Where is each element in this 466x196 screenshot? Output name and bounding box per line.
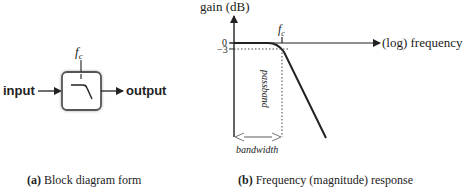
tick-minus3: −3 [217,44,228,55]
response-curve [234,43,326,138]
bandwidth-label: bandwidth [236,144,278,155]
output-label: output [126,83,167,98]
caption-a: (a) Block diagram form [27,173,142,187]
y-axis-label: gain (dB) [200,0,249,14]
frequency-response-plot: gain (dB) (log) frequency 0 −3 fc passba… [200,0,463,155]
cutoff-label-plot: fc [278,22,285,38]
x-axis-label: (log) frequency [382,35,463,50]
block-diagram: input fc output [3,44,167,110]
caption-b: (b) Frequency (magnitude) response [238,173,413,187]
diagram-canvas: input fc output (a) Block diagram form g… [0,0,466,196]
input-label: input [3,83,35,98]
passband-label: passband [260,69,271,109]
cutoff-label-block: fc [75,44,83,61]
